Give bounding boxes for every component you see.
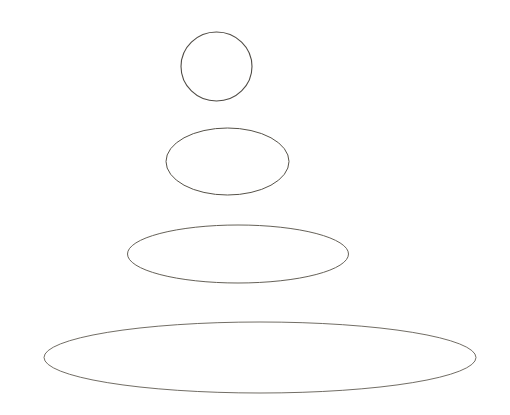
- ellipse-largest: [44, 322, 476, 393]
- ellipse-second: [166, 128, 289, 195]
- figure-canvas: ··· ··· ···· ·· ··· ·· ···· ··· ····· ··…: [0, 0, 510, 415]
- ellipse-stack-diagram: [0, 0, 510, 415]
- circle-top: [181, 32, 252, 101]
- clipped-caption-text: ··· ··· ···· ·· ··· ·· ···· ··· ····· ··…: [0, 408, 510, 415]
- ellipse-third: [128, 225, 349, 283]
